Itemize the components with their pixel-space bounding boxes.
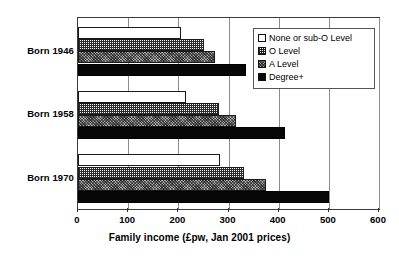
x-tick-mark-300 <box>228 208 229 212</box>
bar-born-1970-none-or-sub-o-level <box>78 154 220 166</box>
bar-born-1970-o-level <box>78 167 244 179</box>
category-axis-labels: Born 1946 Born 1958 Born 1970 <box>0 0 74 265</box>
legend-label: None or sub-O Level <box>269 33 352 43</box>
legend-item-a-level[interactable]: A Level <box>258 58 370 70</box>
grid-hatch-square-icon <box>258 47 266 55</box>
x-tick-label-100: 100 <box>119 214 135 225</box>
category-label-born-1958: Born 1958 <box>4 108 74 119</box>
bar-born-1970-degree <box>78 191 329 203</box>
x-tick-mark-200 <box>177 208 178 212</box>
x-tick-mark-0 <box>77 208 78 212</box>
legend-label: Degree+ <box>269 72 304 82</box>
x-tick-label-300: 300 <box>220 214 236 225</box>
bar-born-1946-o-level <box>78 39 204 51</box>
bar-born-1946-none-or-sub-o-level <box>78 27 181 39</box>
x-tick-label-0: 0 <box>74 214 79 225</box>
x-tick-mark-500 <box>328 208 329 212</box>
bar-born-1970-a-level <box>78 179 266 191</box>
bar-born-1946-a-level <box>78 51 215 63</box>
legend-item-none-or-sub-o-level[interactable]: None or sub-O Level <box>258 32 370 44</box>
x-tick-mark-100 <box>127 208 128 212</box>
bar-born-1958-none-or-sub-o-level <box>78 91 186 103</box>
x-axis-title: Family income (£pw, Jan 2001 prices) <box>0 232 399 243</box>
category-label-born-1970: Born 1970 <box>4 172 74 183</box>
x-axis-ticks: 0100200300400500600 <box>77 208 378 230</box>
white-square-icon <box>258 34 266 42</box>
category-label-born-1946: Born 1946 <box>4 45 74 56</box>
bar-born-1946-degree <box>78 64 246 76</box>
gridline-600 <box>379 18 380 209</box>
legend-label: A Level <box>269 59 299 69</box>
bar-born-1958-a-level <box>78 115 236 127</box>
checker-square-icon <box>258 60 266 68</box>
legend-item-o-level[interactable]: O Level <box>258 45 370 57</box>
x-tick-label-500: 500 <box>320 214 336 225</box>
x-tick-mark-600 <box>378 208 379 212</box>
x-tick-label-400: 400 <box>270 214 286 225</box>
x-tick-label-600: 600 <box>370 214 386 225</box>
black-square-icon <box>258 73 266 81</box>
x-tick-label-200: 200 <box>169 214 185 225</box>
legend-item-degree-plus[interactable]: Degree+ <box>258 71 370 83</box>
legend-label: O Level <box>269 46 300 56</box>
legend: None or sub-O Level O Level A Level Degr… <box>253 28 375 89</box>
bar-born-1958-degree <box>78 127 285 139</box>
x-tick-mark-400 <box>278 208 279 212</box>
bar-born-1958-o-level <box>78 103 219 115</box>
family-income-bar-chart: Born 1946 Born 1958 Born 1970 0100200300… <box>0 0 399 265</box>
